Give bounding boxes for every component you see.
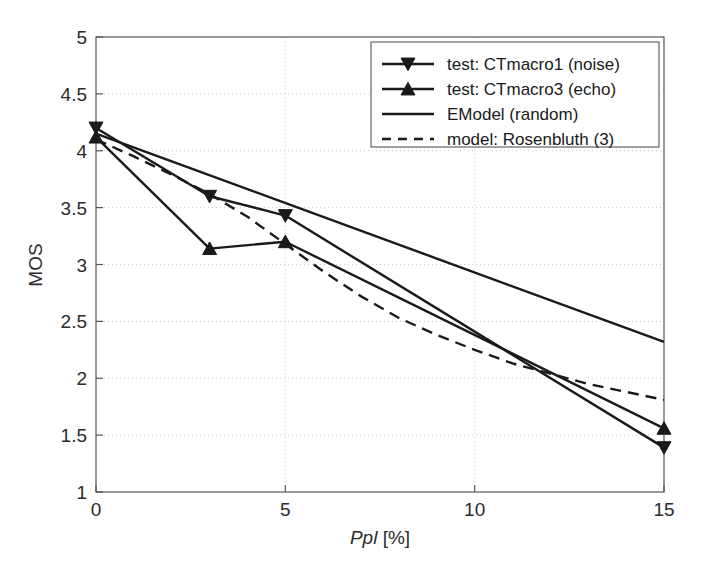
x-tick-label: 0: [91, 499, 102, 520]
y-tick-label: 3: [76, 255, 87, 276]
x-tick-label: 10: [464, 499, 485, 520]
legend-label: test: CTmacro3 (echo): [447, 80, 616, 99]
legend-label: EModel (random): [447, 105, 578, 124]
x-tick-label: 5: [280, 499, 291, 520]
y-tick-label: 5: [76, 27, 87, 48]
y-tick-label: 3.5: [61, 198, 87, 219]
chart-legend: test: CTmacro1 (noise)test: CTmacro3 (ec…: [371, 42, 659, 149]
x-axis-title-variable: Ppl: [350, 527, 378, 548]
mos-vs-packet-loss-chart: 11.522.533.544.55 051015 MOS Ppl [%] tes…: [0, 0, 709, 571]
y-tick-label: 2.5: [61, 311, 87, 332]
y-tick-label: 2: [76, 368, 87, 389]
y-tick-label: 4.5: [61, 84, 87, 105]
y-axis-title: MOS: [25, 243, 46, 286]
legend-label: test: CTmacro1 (noise): [447, 55, 620, 74]
x-axis-title: Ppl [%]: [350, 527, 410, 548]
x-axis-title-unit: [%]: [377, 527, 410, 548]
y-tick-label: 1.5: [61, 425, 87, 446]
figure-container: 11.522.533.544.55 051015 MOS Ppl [%] tes…: [0, 0, 709, 571]
x-tick-label: 15: [653, 499, 674, 520]
y-tick-label: 1: [76, 482, 87, 503]
y-tick-label: 4: [76, 141, 87, 162]
legend-label: model: Rosenbluth (3): [447, 130, 614, 149]
